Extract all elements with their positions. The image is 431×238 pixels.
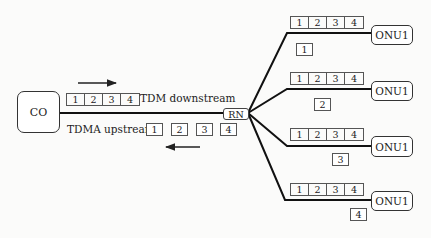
upstream-slot: 3: [196, 123, 213, 136]
branch-4-upstream-slot: 4: [350, 208, 367, 221]
slot: 1: [291, 129, 309, 140]
slot: 2: [309, 184, 327, 195]
onu-node-4: ONU1: [371, 191, 413, 211]
branch-1-upstream-slot: 1: [296, 43, 313, 56]
branch-3-upstream-slot: 3: [332, 153, 349, 166]
slot: 2: [309, 17, 327, 28]
slot: 4: [345, 184, 363, 195]
downstream-frame: 1 2 3 4: [66, 93, 140, 106]
branch-2-upstream-slot: 2: [314, 98, 331, 111]
slot: 2: [309, 73, 327, 84]
slot: 1: [291, 17, 309, 28]
onu-label: ONU1: [375, 141, 408, 153]
upstream-label: TDMA upstream: [67, 123, 155, 135]
onu-label: ONU1: [375, 29, 408, 41]
slot: 1: [291, 73, 309, 84]
upstream-slot: 1: [146, 123, 163, 136]
slot: 3: [327, 129, 345, 140]
branch-2: [248, 89, 371, 113]
central-office-label: CO: [30, 106, 47, 119]
upstream-slot: 4: [220, 123, 237, 136]
slot: 3: [327, 184, 345, 195]
onu-label: ONU1: [375, 85, 408, 97]
branch-2-frame: 1 2 3 4: [290, 72, 364, 85]
central-office-node: CO: [17, 91, 60, 133]
remote-node: RN: [223, 108, 249, 120]
onu-node-3: ONU1: [371, 136, 413, 157]
slot: 4: [345, 17, 363, 28]
slot: 3: [327, 73, 345, 84]
downstream-label: TDM downstream: [140, 92, 235, 104]
slot: 2: [85, 94, 103, 105]
onu-node-2: ONU1: [371, 81, 413, 101]
slot: 2: [309, 129, 327, 140]
slot: 1: [67, 94, 85, 105]
slot: 3: [103, 94, 121, 105]
remote-node-label: RN: [228, 109, 243, 120]
slot: 1: [291, 184, 309, 195]
branch-4-frame: 1 2 3 4: [290, 183, 364, 196]
onu-node-1: ONU1: [371, 25, 413, 45]
branch-3-frame: 1 2 3 4: [290, 128, 364, 141]
slot: 3: [327, 17, 345, 28]
slot: 4: [345, 129, 363, 140]
onu-label: ONU1: [375, 195, 408, 207]
slot: 4: [121, 94, 139, 105]
connection-lines: [0, 0, 431, 238]
upstream-slot: 2: [171, 123, 188, 136]
branch-1-frame: 1 2 3 4: [290, 16, 364, 29]
slot: 4: [345, 73, 363, 84]
